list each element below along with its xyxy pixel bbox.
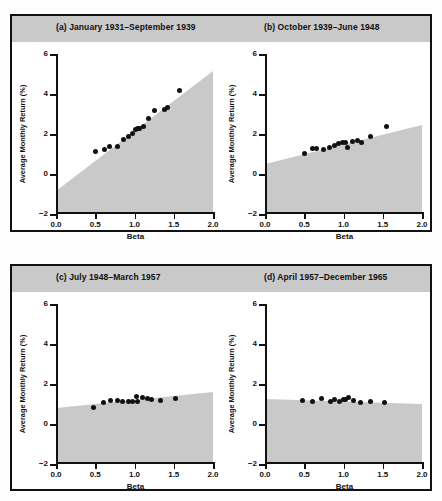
x-tick-label: 0.0 (253, 220, 277, 229)
y-tick-label: 2 (32, 129, 48, 138)
plot-inner (56, 54, 213, 214)
x-tick-label: 0.5 (292, 220, 316, 229)
title-band-bottom: (c) July 1948–March 1957 (d) April 1957–… (12, 266, 430, 292)
data-point (158, 398, 163, 403)
y-tick (259, 94, 266, 96)
x-tick-label: 1.5 (162, 470, 186, 479)
x-tick (135, 464, 137, 469)
plot-area-d (265, 304, 422, 464)
x-tick (344, 464, 346, 469)
x-tick (135, 214, 137, 219)
y-tick (259, 384, 266, 386)
x-axis-title: Beta (56, 482, 215, 491)
y-axis-title: Average Monthly Return (%) (227, 304, 236, 464)
y-tick-label: −2 (241, 459, 257, 468)
data-point (152, 108, 157, 113)
data-point (314, 146, 319, 151)
y-tick-label: −2 (32, 209, 48, 218)
plot-area-b (265, 54, 422, 214)
panel-a-title: (a) January 1931–September 1939 (56, 22, 196, 32)
y-tick (50, 54, 57, 56)
x-tick-label: 2.0 (410, 470, 434, 479)
y-tick-label: 6 (32, 299, 48, 308)
x-tick (304, 214, 306, 219)
x-tick-label: 1.5 (371, 220, 395, 229)
y-tick (259, 304, 266, 306)
y-tick (259, 134, 266, 136)
x-tick-label: 0.5 (83, 470, 107, 479)
plot-inner (265, 54, 422, 214)
data-point (384, 124, 389, 129)
x-tick (422, 214, 424, 219)
x-tick-label: 0.5 (292, 470, 316, 479)
y-tick (50, 424, 57, 426)
x-tick (95, 464, 97, 469)
x-tick (265, 464, 267, 469)
data-point (146, 116, 151, 121)
data-point (173, 396, 178, 401)
data-point (140, 395, 145, 400)
data-point (350, 139, 355, 144)
data-point (91, 405, 96, 410)
x-tick (383, 214, 385, 219)
x-tick-label: 0.0 (44, 220, 68, 229)
figure-sheet: (a) January 1931–September 1939 (b) Octo… (0, 0, 442, 501)
y-axis-title: Average Monthly Return (%) (227, 54, 236, 214)
y-tick-label: 6 (241, 49, 257, 58)
x-tick (213, 214, 215, 219)
y-tick (259, 344, 266, 346)
data-point (135, 399, 140, 404)
data-point (359, 140, 364, 145)
y-tick-label: 4 (32, 89, 48, 98)
y-tick (50, 344, 57, 346)
data-point (310, 399, 315, 404)
data-point (368, 399, 373, 404)
chart-panel-d: Average Monthly Return (%)6420−20.00.51.… (221, 292, 432, 484)
chart-panel-c: Average Monthly Return (%)6420−20.00.51.… (12, 292, 223, 484)
data-point (141, 124, 146, 129)
y-tick-label: 2 (241, 129, 257, 138)
y-tick (50, 134, 57, 136)
plot-inner (265, 304, 422, 464)
y-tick (50, 94, 57, 96)
y-tick-label: 4 (241, 339, 257, 348)
y-axis-title: Average Monthly Return (%) (18, 304, 27, 464)
x-tick-label: 0.5 (83, 220, 107, 229)
x-tick (56, 214, 58, 219)
x-tick-label: 1.0 (332, 220, 356, 229)
data-point (165, 105, 170, 110)
x-tick-label: 1.0 (123, 220, 147, 229)
data-point (302, 151, 307, 156)
data-point (93, 149, 98, 154)
x-tick-label: 1.5 (371, 470, 395, 479)
x-tick-label: 2.0 (410, 220, 434, 229)
y-tick-label: 2 (32, 379, 48, 388)
y-tick (50, 174, 57, 176)
x-tick (344, 214, 346, 219)
y-tick-label: 0 (32, 169, 48, 178)
y-tick-label: 0 (241, 169, 257, 178)
y-tick (50, 384, 57, 386)
y-tick (259, 54, 266, 56)
y-tick-label: 2 (241, 379, 257, 388)
y-axis-title: Average Monthly Return (%) (18, 54, 27, 214)
data-point (382, 400, 387, 405)
data-point (107, 144, 112, 149)
panel-d-title: (d) April 1957–December 1965 (264, 272, 387, 282)
shaded-region-c (56, 304, 213, 464)
chart-panel-a: Average Monthly Return (%)6420−20.00.51.… (12, 42, 223, 234)
data-point (177, 88, 182, 93)
panel-b-title: (b) October 1939–June 1948 (264, 22, 380, 32)
y-tick-label: 0 (32, 419, 48, 428)
data-point (130, 399, 135, 404)
y-tick-label: 0 (241, 419, 257, 428)
data-point (358, 400, 363, 405)
x-tick-label: 1.0 (123, 470, 147, 479)
data-point (149, 397, 154, 402)
y-tick-label: 6 (241, 299, 257, 308)
data-point (321, 147, 326, 152)
x-tick (174, 464, 176, 469)
data-point (115, 144, 120, 149)
plot-inner (56, 304, 213, 464)
x-tick (265, 214, 267, 219)
